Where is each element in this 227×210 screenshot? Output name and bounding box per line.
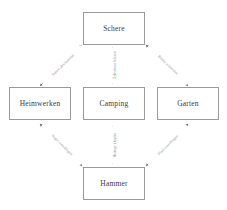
node-hammer[interactable]: Hammer xyxy=(83,167,145,200)
node-schere-label: Schere xyxy=(103,24,125,33)
node-garten[interactable]: Garten xyxy=(157,87,219,120)
node-camping-label: Camping xyxy=(100,99,129,108)
node-schere[interactable]: Schere xyxy=(83,12,145,45)
node-garten-label: Garten xyxy=(177,99,199,108)
edge-label-hammer-camping: Heringe klopfen xyxy=(113,122,117,168)
diagram-canvas: Schere Heimwerken Camping Garten Hammer … xyxy=(0,0,227,210)
node-hammer-label: Hammer xyxy=(100,179,127,188)
node-camping[interactable]: Camping xyxy=(83,87,145,120)
node-heimwerken-label: Heimwerken xyxy=(20,99,61,108)
edge-label-schere-camping: Zeltschnur kürzen xyxy=(113,42,117,88)
node-heimwerken[interactable]: Heimwerken xyxy=(9,87,71,120)
